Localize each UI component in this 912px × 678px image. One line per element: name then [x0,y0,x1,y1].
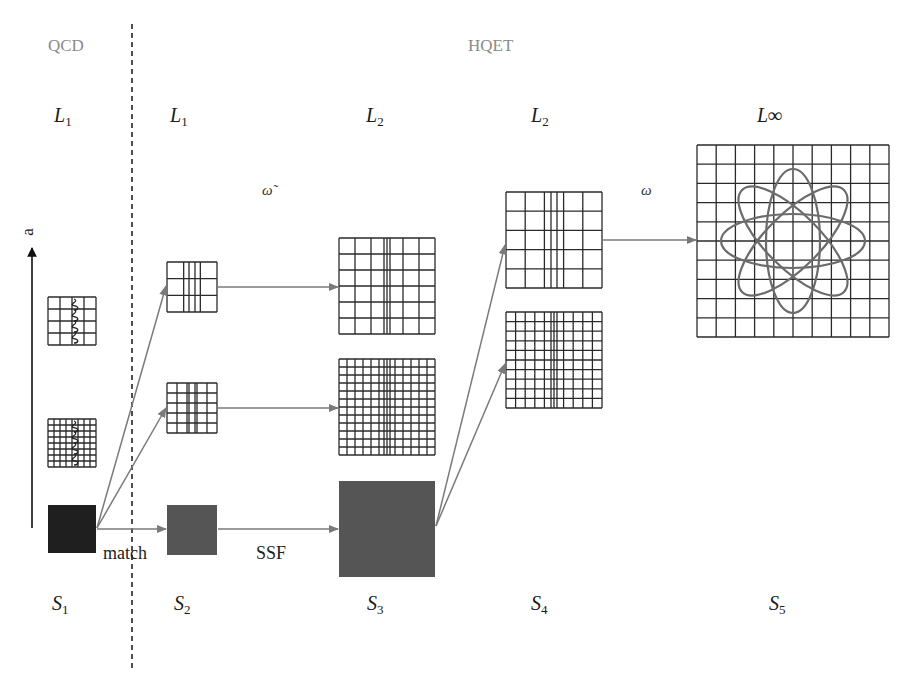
region-label-hqet: HQET [468,36,513,56]
lattice-s3-coarse [339,238,435,334]
lattice-layer [48,145,889,467]
lattice-s5-infinite [697,145,889,337]
step-label-s4: S4 [531,592,548,618]
lattice-qcd-fine [48,419,96,467]
lattice-s3-fine [339,359,435,455]
lattice-s4-coarse [506,192,602,288]
lattice-s2-fine [167,383,217,433]
step-label-s2: S2 [174,592,191,618]
omega-tilde-label: ω̃ [262,182,273,199]
lattice-s4-fine [506,312,602,408]
ssf-label: SSF [256,543,286,564]
level-label-l2-a: L2 [366,104,384,130]
level-label-l1-hqet: L1 [170,104,188,130]
diagram-canvas [0,0,912,678]
axis-label-a: a [18,228,38,236]
box-s2-box [167,505,217,555]
omega-label: ω [641,182,652,199]
arrow-s3-to-s4-coarse [436,245,505,526]
lattice-qcd-coarse [48,297,96,345]
level-label-linf: L∞ [757,104,782,127]
step-label-s5: S5 [769,592,786,618]
step-label-s3: S3 [367,592,384,618]
box-s3-box [339,481,435,577]
box-s1-box [48,505,96,553]
region-label-qcd: QCD [48,36,84,56]
level-label-l1-qcd: L1 [54,104,72,130]
level-label-l2-b: L2 [531,104,549,130]
lattice-s2-coarse [167,262,217,312]
step-label-s1: S1 [52,592,69,618]
match-label: match [103,543,147,564]
